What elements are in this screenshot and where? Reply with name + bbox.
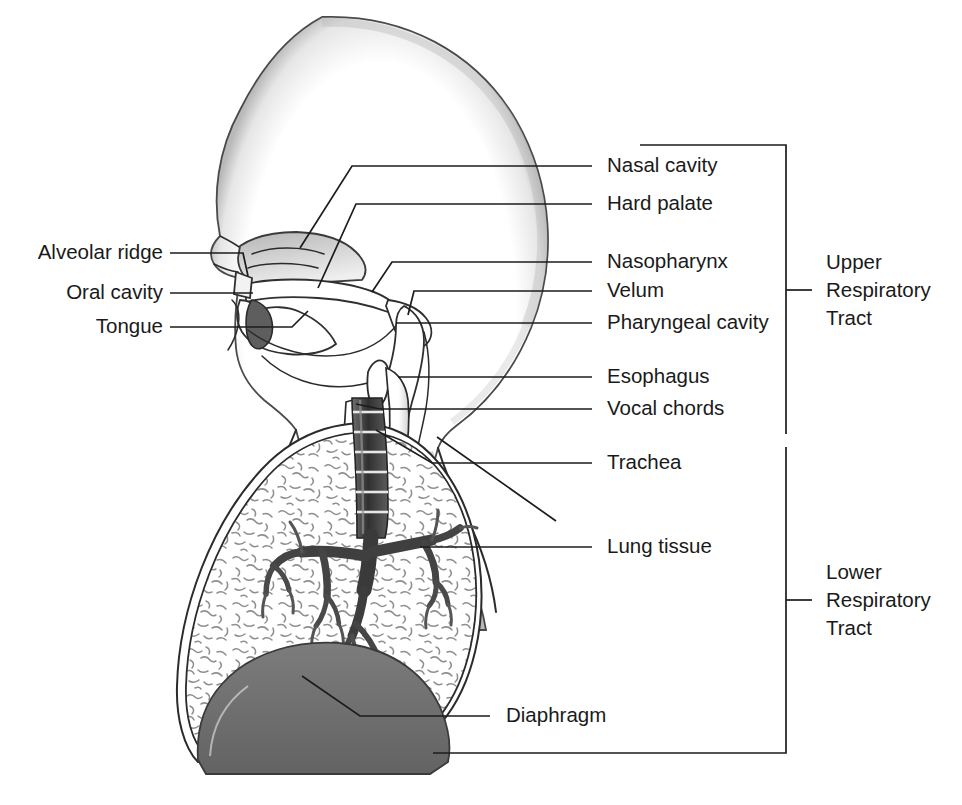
- label-nasopharynx: Nasopharynx: [607, 249, 729, 272]
- label-esophagus: Esophagus: [607, 364, 710, 387]
- label-oral-cavity: Oral cavity: [66, 280, 164, 303]
- label-nasal-cavity: Nasal cavity: [607, 153, 718, 176]
- label-lung-tissue: Lung tissue: [607, 534, 712, 557]
- label-hard-palate: Hard palate: [607, 191, 713, 214]
- trachea: [352, 398, 388, 538]
- label-pharyngeal-cavity: Pharyngeal cavity: [607, 310, 770, 333]
- bracket-lower-line1: Lower: [826, 560, 882, 583]
- bracket-lower-line2: Respiratory: [826, 588, 932, 611]
- bracket-upper-line1: Upper: [826, 250, 882, 273]
- label-alveolar-ridge: Alveolar ridge: [38, 240, 163, 263]
- label-diaphragm: Diaphragm: [506, 703, 606, 726]
- diagram-canvas: Alveolar ridge Oral cavity Tongue Nasal …: [0, 0, 962, 805]
- trachea-tube: [352, 398, 388, 538]
- label-vocal-chords: Vocal chords: [607, 396, 724, 419]
- label-tongue: Tongue: [96, 314, 163, 337]
- bracket-upper-line2: Respiratory: [826, 278, 932, 301]
- bracket-lower-line3: Tract: [826, 616, 872, 639]
- bracket-upper-line3: Tract: [826, 306, 872, 329]
- label-velum: Velum: [607, 278, 664, 301]
- label-trachea: Trachea: [607, 450, 682, 473]
- respiratory-system-figure: Alveolar ridge Oral cavity Tongue Nasal …: [0, 0, 962, 805]
